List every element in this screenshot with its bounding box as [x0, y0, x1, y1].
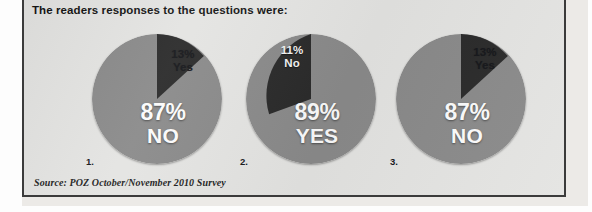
pie-minor-label-3: 13% Yes	[462, 46, 508, 71]
pie-number-3: 3.	[390, 156, 398, 167]
pie-chart-2: 11% No 89% YES 2.	[240, 32, 382, 178]
pie-major-answer-3: NO	[402, 124, 532, 147]
pie-minor-percent-1: 13%	[160, 48, 206, 61]
source-caption: Source: POZ October/November 2010 Survey	[34, 177, 226, 188]
scanned-page: The readers responses to the questions w…	[0, 0, 592, 212]
pie-minor-answer-1: Yes	[160, 61, 206, 74]
pie-minor-label-1: 13% Yes	[160, 48, 206, 73]
pie-major-percent-2: 89%	[252, 100, 382, 124]
pie-chart-1: 13% Yes 87% NO 1.	[86, 32, 228, 178]
pie-minor-answer-3: Yes	[462, 59, 508, 72]
pie-chart-group: 13% Yes 87% NO 1.	[24, 32, 566, 182]
pie-minor-answer-2: No	[270, 57, 314, 70]
survey-infographic-panel: The readers responses to the questions w…	[22, 0, 566, 197]
pie-graphic-1: 13% Yes 87% NO	[92, 34, 222, 164]
pie-number-1: 1.	[86, 156, 94, 167]
pie-graphic-2: 11% No 89% YES	[246, 34, 376, 164]
pie-major-label-2: 89% YES	[252, 100, 382, 147]
pie-major-label-3: 87% NO	[402, 100, 532, 147]
pie-graphic-3: 13% Yes 87% NO	[396, 34, 526, 164]
pie-chart-3: 13% Yes 87% NO 3.	[390, 32, 532, 178]
pie-minor-percent-2: 11%	[270, 44, 314, 57]
pie-minor-percent-3: 13%	[462, 46, 508, 59]
pie-major-label-1: 87% NO	[98, 100, 228, 147]
pie-major-percent-1: 87%	[98, 100, 228, 124]
pie-major-percent-3: 87%	[402, 100, 532, 124]
pie-major-answer-2: YES	[252, 124, 382, 147]
pie-major-answer-1: NO	[98, 124, 228, 147]
pie-number-2: 2.	[240, 156, 248, 167]
pie-minor-label-2: 11% No	[270, 44, 314, 69]
page-title: The readers responses to the questions w…	[32, 4, 288, 16]
